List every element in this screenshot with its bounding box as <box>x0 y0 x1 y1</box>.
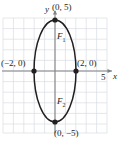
point-covertex-left <box>31 68 36 73</box>
label-focus-2: F2 <box>57 97 66 108</box>
focus-2-subscript: 2 <box>63 102 66 108</box>
point-covertex-right <box>73 68 78 73</box>
x-axis-label: x <box>113 72 117 81</box>
label-vertex-bottom: (0, −5) <box>54 129 79 138</box>
x-axis-tick-label-5: 5 <box>101 73 106 82</box>
focus-1-subscript: 1 <box>63 37 66 43</box>
x-axis <box>2 69 112 73</box>
label-covertex-left: (−2, 0) <box>1 59 26 68</box>
ellipse-figure: (0, 5) (0, −5) (−2, 0) (2, 0) F1 F2 y x … <box>0 0 123 143</box>
y-axis-label: y <box>45 5 49 14</box>
point-vertex-bottom <box>52 119 57 124</box>
label-vertex-top: (0, 5) <box>52 3 72 12</box>
label-covertex-right: (2, 0) <box>77 59 97 68</box>
point-vertex-top <box>52 17 57 22</box>
label-focus-1: F1 <box>57 32 66 43</box>
